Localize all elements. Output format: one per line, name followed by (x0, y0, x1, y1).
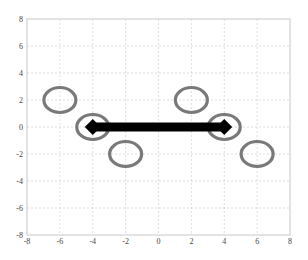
scatter-chart: -8-6-4-202468 -8-6-4-202468 (0, 0, 308, 260)
x-tick-label: 0 (157, 237, 161, 246)
y-tick-label: -2 (16, 150, 23, 159)
x-tick-label: -4 (89, 237, 96, 246)
y-tick-label: 4 (19, 69, 23, 78)
x-axis-tick-labels: -8-6-4-202468 (24, 237, 292, 246)
y-tick-label: 8 (19, 15, 23, 24)
x-tick-label: -2 (122, 237, 129, 246)
x-tick-label: 8 (288, 237, 292, 246)
y-tick-label: 0 (19, 123, 23, 132)
x-tick-label: 4 (222, 237, 226, 246)
x-tick-label: 6 (255, 237, 259, 246)
y-tick-label: -4 (16, 177, 23, 186)
y-tick-label: 2 (19, 96, 23, 105)
y-tick-label: -6 (16, 204, 23, 213)
x-tick-label: -6 (57, 237, 64, 246)
diamond-marker (216, 119, 232, 135)
x-tick-label: 2 (189, 237, 193, 246)
x-tick-label: -8 (24, 237, 31, 246)
diamond-marker (85, 119, 101, 135)
y-tick-label: -8 (16, 231, 23, 240)
y-tick-label: 6 (19, 42, 23, 51)
y-axis-tick-labels: -8-6-4-202468 (16, 15, 23, 240)
